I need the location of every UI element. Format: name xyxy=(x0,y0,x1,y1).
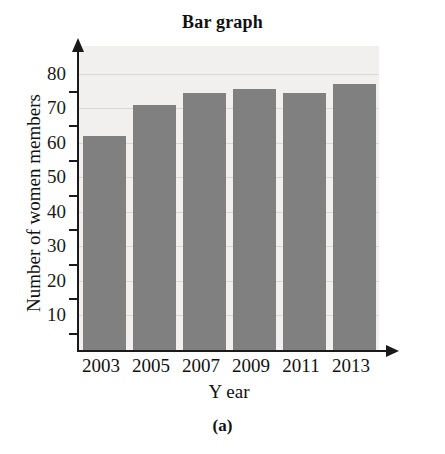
bar xyxy=(233,89,276,350)
y-axis-tick xyxy=(69,333,78,335)
x-axis-title-rest: ear xyxy=(226,381,249,402)
y-axis-tick xyxy=(69,298,78,300)
y-axis-tick xyxy=(69,264,78,266)
y-axis-line xyxy=(77,50,79,352)
bar xyxy=(133,105,176,350)
gridline xyxy=(79,74,379,75)
bar xyxy=(333,84,376,350)
y-axis-title: Number of women members xyxy=(23,63,45,343)
x-axis-tick-label: 2007 xyxy=(176,355,226,377)
y-axis-tick xyxy=(69,91,78,93)
x-axis-tick-label: 2009 xyxy=(226,355,276,377)
x-axis-tick-label: 2005 xyxy=(126,355,176,377)
bar xyxy=(83,136,126,350)
x-axis-tick-label: 2013 xyxy=(326,355,376,377)
x-axis-tick-label: 2003 xyxy=(76,355,126,377)
x-axis-title: Year xyxy=(79,381,379,403)
x-axis-arrow-icon xyxy=(386,345,399,357)
y-axis-arrow-icon xyxy=(72,38,84,52)
figure-caption: (a) xyxy=(0,416,445,436)
y-axis-tick xyxy=(69,195,78,197)
chart-title: Bar graph xyxy=(0,12,445,33)
y-axis-tick xyxy=(69,125,78,127)
bar xyxy=(183,93,226,350)
bar-graph-figure: Bar graph 1020304050607080 Number of wom… xyxy=(0,0,445,454)
x-axis-title-lead: Y xyxy=(209,381,227,402)
bar xyxy=(283,93,326,350)
x-axis-tick-label: 2011 xyxy=(276,355,326,377)
y-axis-tick xyxy=(69,229,78,231)
y-axis-tick xyxy=(69,160,78,162)
x-axis-line xyxy=(77,350,387,352)
